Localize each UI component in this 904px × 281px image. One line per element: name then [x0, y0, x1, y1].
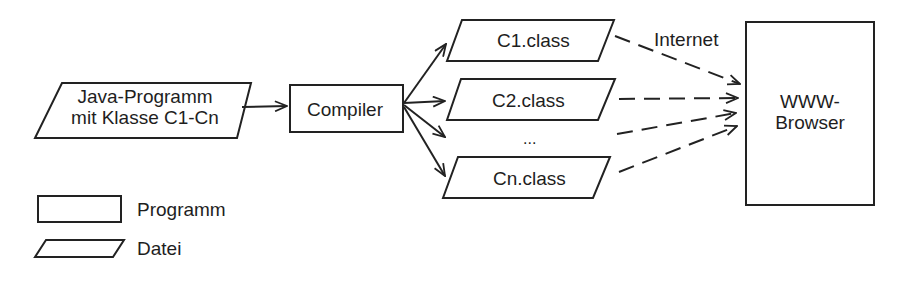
c2-to-browser-arrow: [619, 98, 738, 99]
ellipsis-to-browser-arrow: [617, 113, 736, 134]
browser-label-line2: Browser: [746, 112, 874, 133]
source-file-label-line2: mit Klasse C1-Cn: [45, 107, 245, 128]
source-to-compiler-arrow: [242, 106, 287, 107]
legend-datei-label: Datei: [137, 238, 181, 259]
ellipsis-label: ...: [523, 128, 536, 149]
browser-label: WWW- Browser: [746, 91, 874, 133]
diagram-canvas: [0, 0, 904, 281]
cn-class-label: Cn.class: [493, 168, 566, 189]
compiler-label: Compiler: [307, 99, 383, 120]
compiler-to-cn-arrow: [404, 107, 445, 176]
internet-label: Internet: [654, 29, 718, 50]
browser-label-line1: WWW-: [746, 91, 874, 112]
legend-parallelogram-icon: [35, 240, 124, 257]
source-file-label: Java-Programm mit Klasse C1-Cn: [45, 86, 245, 128]
c1-class-label: C1.class: [497, 30, 570, 51]
c2-class-label: C2.class: [492, 90, 565, 111]
compiler-to-ellipsis-arrow: [404, 105, 445, 137]
compiler-to-c2-arrow: [404, 101, 445, 103]
legend-rectangle-icon: [38, 196, 121, 222]
source-file-label-line1: Java-Programm: [45, 86, 245, 107]
legend-programm-label: Programm: [137, 199, 226, 220]
cn-to-browser-arrow: [619, 126, 737, 172]
compiler-to-c1-arrow: [404, 44, 446, 103]
